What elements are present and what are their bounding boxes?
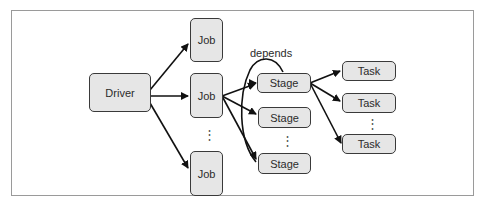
edge-stage1-task1	[310, 71, 340, 83]
driver-label: Driver	[105, 87, 134, 99]
stage-label: Stage	[270, 158, 299, 170]
task-node-3: Task	[342, 134, 396, 154]
job-ellipsis: ⋮	[203, 128, 209, 141]
edge-driver-job3	[150, 103, 188, 168]
task-ellipsis: ⋮	[366, 117, 372, 130]
job-node-3: Job	[190, 151, 223, 196]
job-label: Job	[198, 168, 216, 180]
edge-job2-stage1	[222, 84, 255, 96]
task-node-1: Task	[342, 61, 396, 81]
task-node-2: Task	[342, 93, 396, 113]
stage-node-2: Stage	[258, 107, 311, 128]
stage-node-1: Stage	[257, 73, 311, 93]
edges-layer	[0, 0, 480, 212]
stage-label: Stage	[270, 77, 299, 89]
job-node-2: Job	[190, 73, 223, 118]
job-label: Job	[198, 90, 216, 102]
stage-node-3: Stage	[258, 153, 311, 174]
task-label: Task	[358, 65, 381, 77]
task-label: Task	[358, 138, 381, 150]
job-label: Job	[198, 34, 216, 46]
stage-label: Stage	[270, 112, 299, 124]
task-label: Task	[358, 97, 381, 109]
edge-driver-job1	[150, 44, 188, 90]
job-node-1: Job	[190, 18, 223, 62]
stage-ellipsis: ⋮	[281, 134, 287, 147]
depends-label: depends	[250, 47, 292, 59]
driver-node: Driver	[89, 73, 151, 112]
